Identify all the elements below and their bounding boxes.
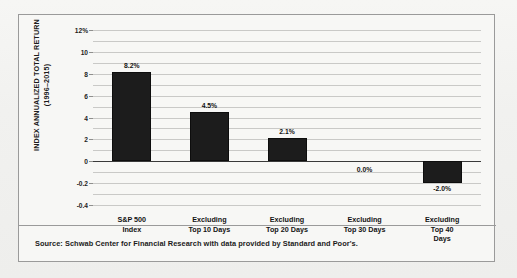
y-axis-tick-label: -0.2 (77, 180, 88, 187)
bar-value-label: -2.0% (433, 185, 451, 192)
y-axis-tick-label: 8 (84, 70, 88, 77)
y-axis-tick-mark (89, 52, 93, 53)
gridline (93, 205, 481, 206)
y-axis-tick-mark (89, 161, 93, 162)
bar (112, 72, 151, 162)
bar (190, 112, 229, 161)
y-axis-tick-mark (89, 139, 93, 140)
bar-value-label: 2.1% (279, 128, 295, 135)
gridline (93, 194, 481, 195)
bar-value-label: 0.0% (357, 166, 373, 173)
y-axis-tick-label: 4 (84, 114, 88, 121)
y-axis-tick-label: 10 (81, 48, 88, 55)
gridline (93, 41, 481, 42)
y-axis-tick-label: 2 (84, 136, 88, 143)
gridline (93, 52, 481, 53)
bar-value-label: 8.2% (124, 62, 140, 69)
chart-frame: INDEX ANNUALIZED TOTAL RETURN (1996–2015… (18, 14, 495, 262)
bar-chart: INDEX ANNUALIZED TOTAL RETURN (1996–2015… (19, 15, 496, 220)
gridline (93, 183, 481, 184)
page-background: INDEX ANNUALIZED TOTAL RETURN (1996–2015… (0, 0, 517, 278)
y-axis-tick-label: 0 (84, 158, 88, 165)
x-axis-category-label: Excluding Top 40 Days (423, 215, 462, 244)
y-axis-tick-mark (89, 183, 93, 184)
y-axis-tick-label: -0.4 (77, 202, 88, 209)
footer-divider (19, 225, 496, 226)
gridline (93, 30, 481, 31)
y-axis-tick-mark (89, 205, 93, 206)
y-axis-tick-mark (89, 118, 93, 119)
gridline (93, 63, 481, 64)
bar-value-label: 4.5% (202, 102, 218, 109)
y-axis-tick-label: 6 (84, 92, 88, 99)
y-axis-tick-mark (89, 74, 93, 75)
y-axis-title: INDEX ANNUALIZED TOTAL RETURN (1996–2015… (32, 0, 52, 170)
y-axis-tick-label: 12% (75, 27, 88, 34)
source-note: Source: Schwab Center for Financial Rese… (35, 239, 358, 248)
bar (268, 138, 307, 161)
plot-area: 12%1086420-0.2-0.48.2%S&P 500 Index4.5%E… (93, 30, 481, 205)
y-axis-title-text: INDEX ANNUALIZED TOTAL RETURN (1996–2015… (32, 19, 51, 151)
bar (423, 161, 462, 183)
y-axis-tick-mark (89, 30, 93, 31)
y-axis-tick-mark (89, 96, 93, 97)
